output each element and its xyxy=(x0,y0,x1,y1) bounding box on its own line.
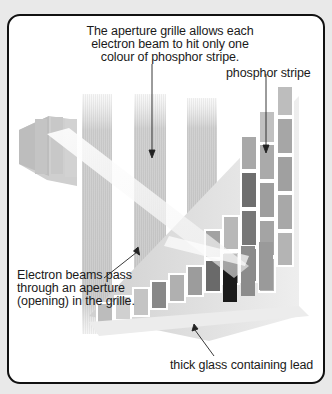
electron-gun xyxy=(19,116,77,186)
aperture-grille-label: The aperture grille allows each electron… xyxy=(67,25,273,64)
diagram-frame: The aperture grille allows each electron… xyxy=(7,14,325,384)
beam-label-line-3: (opening) in the grille. xyxy=(17,295,135,308)
electron-beam-label: Electron beams pass through an aperture … xyxy=(17,269,135,308)
aperture-label-line-3: colour of phosphor stripe. xyxy=(67,51,273,64)
phosphor-stripe-label: phosphor stripe xyxy=(226,67,311,80)
glass-label: thick glass containing lead xyxy=(170,359,313,372)
